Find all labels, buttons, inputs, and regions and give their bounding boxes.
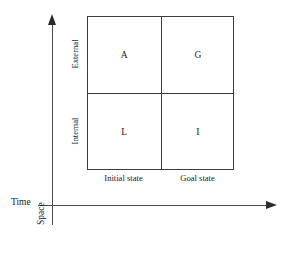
vertical-axis-line [52, 22, 53, 225]
quadrant-internal-goal: I [162, 94, 235, 170]
quadrant-label-g: G [195, 50, 202, 61]
quadrant-external-initial: A [88, 17, 161, 93]
column-label-goal-state: Goal state [161, 173, 234, 183]
quadrant-external-goal: G [162, 17, 235, 93]
horizontal-axis-arrow-icon [266, 201, 277, 209]
quadrant-label-l: L [121, 127, 127, 138]
vertical-axis-arrow-icon [48, 14, 56, 25]
horizontal-axis-label: Time [11, 197, 31, 208]
quadrant-label-a: A [121, 50, 128, 61]
matrix-box: A G L I [87, 16, 234, 170]
row-label-internal: Internal [70, 102, 80, 160]
quadrant-label-i: I [196, 127, 199, 138]
diagram-canvas: Time Space External Internal A G L I Ini… [0, 0, 290, 260]
row-label-external: External [70, 25, 80, 83]
quadrant-internal-initial: L [88, 94, 161, 170]
horizontal-axis-line [38, 205, 268, 206]
vertical-axis-label: Space [36, 191, 47, 225]
column-label-initial-state: Initial state [87, 173, 160, 183]
